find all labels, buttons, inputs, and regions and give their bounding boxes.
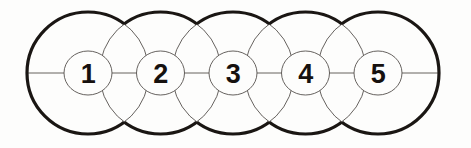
node-4[interactable]: 4: [282, 51, 330, 95]
node-2[interactable]: 2: [137, 51, 185, 95]
node-label-5: 5: [371, 59, 386, 89]
diagram-canvas: 12345: [0, 0, 471, 148]
node-label-4: 4: [298, 59, 313, 89]
node-1[interactable]: 1: [64, 51, 112, 95]
node-label-2: 2: [153, 59, 168, 89]
node-3[interactable]: 3: [209, 51, 257, 95]
node-label-3: 3: [226, 59, 241, 89]
overlapping-circles-diagram: 12345: [0, 0, 471, 148]
node-label-1: 1: [81, 59, 96, 89]
node-5[interactable]: 5: [354, 51, 402, 95]
